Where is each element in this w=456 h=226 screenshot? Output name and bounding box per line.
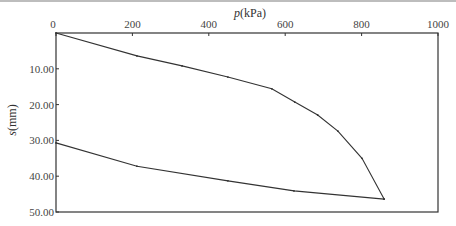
data-point (227, 180, 229, 182)
data-point (293, 190, 295, 192)
y-axis-ticks: 10.0020.0030.0040.0050.00 (29, 63, 59, 218)
x-tick-label: 0 (50, 18, 56, 30)
data-point (294, 101, 296, 103)
y-axis-title: s(mm) (5, 104, 19, 135)
x-tick-label: 400 (201, 18, 218, 30)
y-tick-label: 20.00 (29, 99, 54, 111)
x-tick-label: 600 (277, 18, 294, 30)
data-series (55, 32, 385, 200)
data-point (181, 65, 183, 67)
x-tick-label: 1000 (427, 18, 450, 30)
data-point (55, 32, 57, 34)
data-point (383, 198, 385, 200)
data-point (337, 130, 339, 132)
x-tick-label: 800 (353, 18, 370, 30)
y-tick-label: 10.00 (29, 63, 54, 75)
y-tick-label: 50.00 (29, 206, 54, 218)
x-tick-label: 200 (124, 18, 141, 30)
y-tick-label: 30.00 (29, 134, 54, 146)
series-line-unloading (56, 143, 384, 199)
data-point (271, 88, 273, 90)
data-point (136, 165, 138, 167)
load-settlement-chart: 02004006008001000 10.0020.0030.0040.0050… (0, 0, 456, 226)
data-point (136, 55, 138, 57)
data-point (361, 157, 363, 159)
series-line-loading (56, 33, 384, 199)
data-point (55, 142, 57, 144)
y-tick-label: 40.00 (29, 170, 54, 182)
x-axis-title: p(kPa) (233, 6, 266, 20)
plot-frame (56, 33, 438, 212)
data-point (227, 76, 229, 78)
data-point (317, 114, 319, 116)
plot-border (56, 33, 438, 212)
